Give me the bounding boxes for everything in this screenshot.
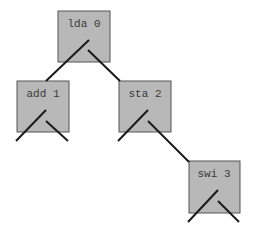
node-add-1: add 1 — [17, 81, 69, 132]
node-label: add 1 — [26, 88, 59, 100]
node-sta-2: sta 2 — [119, 81, 171, 132]
node-lda-0: lda 0 — [58, 11, 110, 62]
tree-diagram: lda 0 add 1 sta 2 swi 3 — [0, 0, 257, 238]
node-label: swi 3 — [197, 168, 230, 180]
node-swi-3: swi 3 — [189, 161, 240, 213]
node-label: sta 2 — [128, 88, 161, 100]
node-label: lda 0 — [67, 18, 100, 30]
